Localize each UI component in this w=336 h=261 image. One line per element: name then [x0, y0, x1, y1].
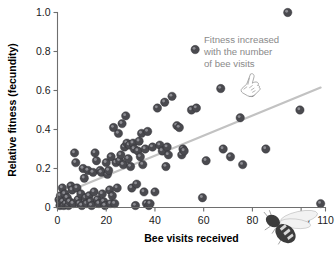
data-point-highlight — [87, 193, 90, 196]
data-point-highlight — [110, 193, 113, 196]
data-point — [198, 194, 206, 202]
data-point-highlight — [94, 158, 97, 161]
data-point-highlight — [145, 129, 148, 132]
data-point-highlight — [157, 142, 160, 145]
data-point — [139, 160, 147, 168]
data-point — [117, 151, 125, 159]
data-point-highlight — [200, 195, 203, 198]
data-point — [316, 199, 324, 207]
data-point-highlight — [160, 148, 163, 151]
data-point-highlight — [129, 185, 132, 188]
x-tick-label: 0 — [55, 214, 61, 226]
data-point-highlight — [72, 150, 75, 153]
data-point-highlight — [138, 154, 141, 157]
data-point — [161, 98, 169, 106]
x-tick-label: 110 — [317, 214, 334, 226]
data-point — [108, 192, 116, 200]
data-point-highlight — [150, 144, 153, 147]
data-point-highlight — [218, 86, 221, 89]
data-point-highlight — [148, 201, 151, 204]
data-point-highlight — [131, 141, 134, 144]
data-point — [217, 84, 225, 92]
data-point-highlight — [121, 162, 124, 165]
data-point-highlight — [162, 100, 165, 103]
y-tick-label: 0 — [45, 201, 51, 213]
data-point — [70, 149, 78, 157]
data-point-highlight — [58, 193, 61, 196]
data-point-highlight — [134, 181, 137, 184]
data-point-highlight — [128, 164, 131, 167]
bee-illustration-icon — [263, 208, 318, 248]
data-point-highlight — [100, 191, 103, 194]
data-point — [168, 92, 176, 100]
data-point — [175, 123, 183, 131]
data-point-highlight — [71, 201, 74, 204]
data-point-highlight — [62, 191, 65, 194]
data-point — [164, 151, 172, 159]
data-point-highlight — [106, 168, 109, 171]
annotation-line-3: of bee visits — [204, 58, 255, 69]
data-point-highlight — [238, 115, 241, 118]
data-point — [91, 149, 99, 157]
data-point-highlight — [109, 154, 112, 157]
data-point — [140, 188, 148, 196]
data-point — [132, 180, 140, 188]
data-point-highlight — [189, 107, 192, 110]
data-point — [98, 190, 106, 198]
data-point — [104, 166, 112, 174]
pointing-hand-icon — [241, 74, 260, 97]
data-point-highlight — [70, 187, 73, 190]
data-point — [191, 45, 199, 53]
data-point-highlight — [89, 203, 92, 206]
data-point — [153, 104, 161, 112]
data-point-highlight — [116, 131, 119, 134]
trend-line — [58, 88, 321, 196]
data-point-highlight — [297, 107, 300, 110]
data-point-highlight — [141, 189, 144, 192]
data-point — [136, 153, 144, 161]
data-point-highlight — [143, 146, 146, 149]
data-point — [219, 145, 227, 153]
data-point-highlight — [240, 162, 243, 165]
data-point-highlight — [102, 203, 105, 206]
data-point-highlight — [65, 195, 68, 198]
x-tick-label: 20 — [100, 214, 112, 226]
data-point — [162, 162, 170, 170]
data-point-highlight — [107, 187, 110, 190]
data-point-highlight — [166, 152, 169, 155]
data-point-highlight — [163, 164, 166, 167]
data-point-highlight — [120, 121, 123, 124]
data-point — [202, 157, 210, 165]
data-point-highlight — [228, 154, 231, 157]
data-point — [296, 106, 304, 114]
data-point — [163, 143, 171, 151]
data-point-highlight — [104, 160, 107, 163]
data-point — [113, 184, 121, 192]
data-point-highlight — [285, 10, 288, 13]
chart-canvas: 00.20.40.60.81.0020406080100110Bee visit… — [0, 0, 336, 261]
data-point-highlight — [204, 158, 207, 161]
data-point — [192, 104, 200, 112]
data-point — [80, 174, 88, 182]
y-tick-label: 0.4 — [36, 123, 51, 135]
data-point-highlight — [139, 131, 142, 134]
data-point-highlight — [318, 201, 321, 204]
data-point-highlight — [99, 170, 102, 173]
data-point-highlight — [126, 156, 129, 159]
data-point-highlight — [155, 105, 158, 108]
y-tick-label: 0.2 — [36, 162, 51, 174]
data-point-highlight — [92, 189, 95, 192]
y-tick-label: 0.6 — [36, 84, 51, 96]
data-point-highlight — [135, 148, 138, 151]
data-point — [284, 8, 292, 16]
data-point-highlight — [73, 160, 76, 163]
data-point-highlight — [177, 125, 180, 128]
trend-line-group — [58, 88, 321, 196]
data-point-highlight — [263, 146, 266, 149]
data-point-highlight — [152, 189, 155, 192]
data-point-highlight — [123, 113, 126, 116]
data-point — [151, 188, 159, 196]
data-point — [148, 143, 156, 151]
y-tick-label: 1.0 — [36, 6, 51, 18]
data-point — [90, 188, 98, 196]
